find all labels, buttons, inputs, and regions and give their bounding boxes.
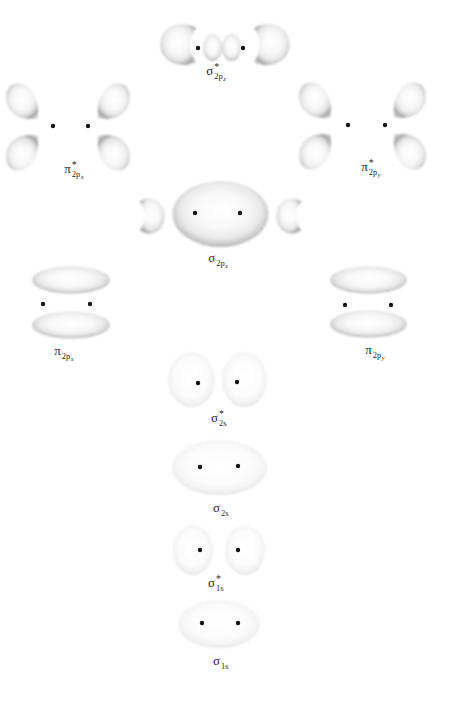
- orbital-pi-2px: [32, 267, 110, 339]
- orbital-subscript: 2py: [373, 351, 385, 360]
- orbital-pi-2py: [330, 267, 407, 338]
- nucleus-dot: [196, 381, 200, 385]
- orbital-lobe: [330, 311, 407, 338]
- star-superscript: *: [219, 411, 224, 416]
- label-sigma-star-2pz: σ*2pz: [206, 64, 226, 81]
- label-sigma-1s: σ1s: [213, 654, 229, 671]
- label-sigma-2pz: σ2pz: [208, 251, 228, 268]
- orbital-lobe: [161, 24, 197, 65]
- orbital-subscript: 2py: [369, 168, 381, 177]
- orbital-lobe: [299, 82, 331, 118]
- orbital-sigma-star-2pz: [161, 24, 290, 65]
- label-pi-star-2py: π*2py: [361, 160, 380, 177]
- orbital-lobe: [32, 312, 110, 339]
- orbital-subscript: 2pz: [216, 259, 228, 268]
- axis-subscript: z: [223, 75, 226, 82]
- orbital-lobe: [168, 352, 215, 407]
- orbital-subscript: 1s: [221, 662, 229, 671]
- orbital-subscript: 1s: [216, 584, 224, 593]
- nucleus-dot: [198, 548, 202, 552]
- orbital-sigma-1s: [178, 600, 260, 648]
- nucleus-dot: [236, 548, 240, 552]
- orbital-subscript: 2s: [219, 419, 227, 428]
- label-pi-2px: π2px: [54, 344, 73, 361]
- nucleus-dot: [200, 621, 204, 625]
- orbital-sigma-2s: [172, 440, 267, 495]
- orbital-lobe: [394, 134, 426, 170]
- star-superscript: *: [216, 576, 221, 581]
- orbital-lobe: [172, 440, 267, 495]
- orbital-symbol: π: [361, 160, 368, 173]
- axis-subscript: x: [71, 355, 74, 362]
- orbital-symbol: π: [365, 343, 372, 356]
- orbital-pi-star-2py: [299, 82, 426, 169]
- nucleus-dot: [41, 302, 45, 306]
- orbital-lobe: [98, 135, 130, 171]
- star-superscript: *: [369, 160, 374, 165]
- orbital-sigma-star-1s: [173, 525, 265, 575]
- star-superscript: *: [214, 64, 219, 69]
- orbital-sigma-star-2s: [168, 352, 267, 407]
- axis-subscript: x: [81, 173, 84, 180]
- orbital-symbol: π: [54, 344, 61, 357]
- orbital-lobe: [173, 181, 269, 247]
- orbital-lobe: [173, 525, 213, 575]
- nucleus-dot: [235, 380, 239, 384]
- nucleus-dot: [346, 123, 350, 127]
- nucleus-dot: [51, 124, 55, 128]
- orbital-symbol: σ: [206, 64, 213, 77]
- nucleus-dot: [389, 303, 393, 307]
- orbital-lobe: [222, 34, 241, 61]
- orbital-lobe: [203, 34, 222, 61]
- orbital-symbol: σ: [208, 576, 215, 589]
- orbital-lobe: [299, 134, 331, 170]
- orbital-symbol: σ: [213, 501, 220, 514]
- orbital-subscript: 2pz: [214, 72, 226, 81]
- orbital-pi-star-2px: [6, 83, 130, 170]
- orbital-lobe: [277, 198, 302, 233]
- orbital-sigma-2pz: [140, 181, 302, 247]
- orbital-lobe: [140, 198, 165, 233]
- molecular-orbitals-figure: σ*2pz π*2px π*2py σ2pz π2px π2py σ*2s σ2…: [0, 0, 449, 705]
- orbital-lobe: [225, 525, 265, 575]
- axis-subscript: y: [382, 354, 385, 361]
- label-sigma-2s: σ2s: [213, 501, 229, 518]
- nucleus-dot: [198, 465, 202, 469]
- nucleus-dot: [343, 303, 347, 307]
- orbital-lobe: [98, 83, 130, 119]
- orbital-symbol: σ: [213, 654, 220, 667]
- star-superscript: *: [72, 162, 77, 167]
- nucleus-dot: [383, 123, 387, 127]
- orbital-lobe: [330, 267, 407, 294]
- label-pi-star-2px: π*2px: [64, 162, 83, 179]
- orbital-lobe: [394, 82, 426, 118]
- orbital-symbol: π: [64, 162, 71, 175]
- nucleus-dot: [236, 621, 240, 625]
- nucleus-dot: [238, 211, 242, 215]
- orbital-subscript: 2px: [72, 170, 84, 179]
- nucleus-dot: [193, 211, 197, 215]
- orbital-symbol: σ: [208, 251, 215, 264]
- orbital-lobe: [254, 24, 290, 65]
- orbital-lobe: [222, 352, 267, 407]
- orbital-lobe: [32, 267, 110, 294]
- axis-subscript: z: [225, 262, 228, 269]
- orbital-symbol: σ: [211, 411, 218, 424]
- axis-subscript: y: [378, 171, 381, 178]
- orbital-subscript: 2px: [62, 352, 74, 361]
- orbital-lobe: [6, 83, 38, 119]
- nucleus-dot: [241, 46, 245, 50]
- orbital-lobe: [178, 600, 260, 648]
- label-sigma-star-2s: σ*2s: [211, 411, 227, 428]
- label-sigma-star-1s: σ*1s: [208, 576, 224, 593]
- nucleus-dot: [196, 46, 200, 50]
- orbital-subscript: 2s: [221, 509, 229, 518]
- label-pi-2py: π2py: [365, 343, 384, 360]
- nucleus-dot: [236, 464, 240, 468]
- nucleus-dot: [86, 124, 90, 128]
- nucleus-dot: [88, 302, 92, 306]
- orbital-lobe: [6, 135, 38, 171]
